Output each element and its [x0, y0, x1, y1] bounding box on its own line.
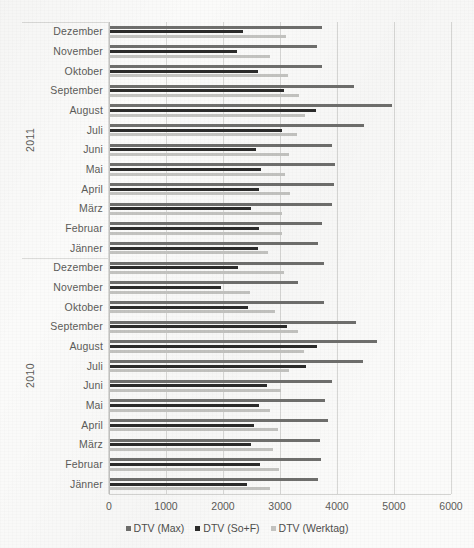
- bar: [110, 74, 288, 77]
- bar: [110, 35, 286, 38]
- bar: [110, 104, 392, 107]
- bar: [110, 399, 325, 402]
- bar: [110, 424, 254, 427]
- bar: [110, 281, 298, 284]
- bar: [110, 384, 267, 387]
- bar: [110, 404, 259, 407]
- bar: [110, 85, 354, 88]
- bar: [110, 286, 221, 289]
- bar: [110, 262, 324, 265]
- legend-item[interactable]: DTV (Werktag): [271, 522, 349, 534]
- bar: [110, 65, 322, 68]
- bar: [110, 133, 297, 136]
- legend-swatch-icon: [126, 526, 131, 531]
- legend-item[interactable]: DTV (Max): [126, 522, 185, 534]
- gridline-6000: [451, 22, 452, 494]
- bar: [110, 340, 377, 343]
- year-group-label-2011: 2011: [24, 22, 40, 258]
- bar: [110, 188, 259, 191]
- value-tick-label-6000: 6000: [421, 500, 474, 512]
- bar: [110, 301, 324, 304]
- bar: [110, 50, 237, 53]
- bar: [110, 389, 281, 392]
- bar: [110, 448, 273, 451]
- legend-item[interactable]: DTV (So+F): [195, 522, 259, 534]
- bar: [110, 55, 270, 58]
- bar: [110, 109, 316, 112]
- chart-legend: DTV (Max)DTV (So+F)DTV (Werktag): [0, 522, 474, 534]
- bar: [110, 173, 285, 176]
- bar: [110, 144, 332, 147]
- bar: [110, 360, 363, 363]
- bar: [110, 45, 317, 48]
- legend-label: DTV (Werktag): [279, 522, 349, 534]
- bar: [110, 306, 248, 309]
- bar: [110, 114, 305, 117]
- bar: [110, 478, 318, 481]
- legend-swatch-icon: [195, 526, 200, 531]
- bar: [110, 163, 335, 166]
- legend-swatch-icon: [271, 526, 276, 531]
- value-tick-label-2000: 2000: [193, 500, 253, 512]
- bar: [110, 124, 364, 127]
- bar: [110, 409, 270, 412]
- bar: [110, 129, 282, 132]
- bar: [110, 232, 282, 235]
- bar: [110, 321, 356, 324]
- bar: [110, 458, 321, 461]
- bar: [110, 203, 332, 206]
- bar: [110, 350, 304, 353]
- bar: [110, 183, 334, 186]
- bar: [110, 468, 279, 471]
- gridline-3000: [280, 22, 281, 494]
- plot-area: [109, 22, 451, 494]
- bar: [110, 212, 282, 215]
- bar: [110, 70, 258, 73]
- bar: [110, 26, 322, 29]
- bar: [110, 168, 261, 171]
- bar: [110, 30, 243, 33]
- bar: [110, 310, 275, 313]
- year-group-label-2010: 2010: [24, 258, 40, 494]
- value-tick-label-3000: 3000: [250, 500, 310, 512]
- legend-label: DTV (So+F): [203, 522, 259, 534]
- bar: [110, 192, 290, 195]
- bar: [110, 463, 260, 466]
- gridline-5000: [394, 22, 395, 494]
- bar: [110, 439, 320, 442]
- value-tick-label-4000: 4000: [307, 500, 367, 512]
- bar: [110, 419, 328, 422]
- bar: [110, 483, 247, 486]
- bar: [110, 247, 258, 250]
- value-tick-label-5000: 5000: [364, 500, 424, 512]
- legend-label: DTV (Max): [134, 522, 185, 534]
- bar: [110, 369, 289, 372]
- bar: [110, 330, 298, 333]
- bar: [110, 242, 318, 245]
- bar: [110, 266, 238, 269]
- bar: [110, 148, 256, 151]
- bar: [110, 443, 251, 446]
- bar: [110, 325, 287, 328]
- value-axis-baseline: [109, 494, 451, 495]
- bar: [110, 207, 251, 210]
- bar: [110, 291, 250, 294]
- bar: [110, 365, 306, 368]
- value-tick-label-1000: 1000: [136, 500, 196, 512]
- value-tick-label-0: 0: [79, 500, 139, 512]
- bar: [110, 271, 284, 274]
- bar: [110, 380, 332, 383]
- bar: [110, 345, 317, 348]
- bar: [110, 251, 268, 254]
- bar: [110, 227, 259, 230]
- bar: [110, 487, 270, 490]
- bar: [110, 428, 278, 431]
- bar: [110, 89, 284, 92]
- bar-chart: DezemberNovemberOktoberSeptemberAugustJu…: [0, 0, 474, 548]
- bar: [110, 94, 299, 97]
- gridline-4000: [337, 22, 338, 494]
- bar: [110, 153, 289, 156]
- bar: [110, 222, 322, 225]
